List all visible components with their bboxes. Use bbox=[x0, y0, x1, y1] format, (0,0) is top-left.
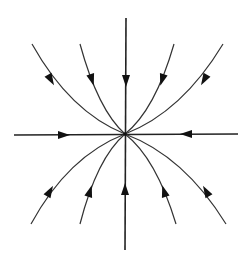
arrow-right-icon bbox=[58, 131, 70, 139]
arrow-left-icon bbox=[180, 130, 192, 138]
arrow-bottom-4-icon bbox=[200, 184, 213, 198]
arrow-bottom-1-icon bbox=[44, 184, 57, 198]
trajectory-bottom-4 bbox=[125, 134, 226, 224]
origin-node bbox=[123, 132, 127, 136]
trajectory-top-2 bbox=[80, 44, 125, 134]
arrow-top-2-icon bbox=[86, 73, 97, 87]
phase-portrait-diagram bbox=[0, 0, 251, 264]
arrow-up-icon bbox=[121, 183, 129, 195]
trajectory-bottom-2 bbox=[80, 134, 125, 224]
arrow-down-icon bbox=[122, 75, 130, 87]
arrow-bottom-3-icon bbox=[158, 184, 169, 198]
trajectory-top-4 bbox=[125, 44, 223, 134]
trajectory-top-1 bbox=[32, 44, 125, 134]
trajectory-bottom-3 bbox=[125, 134, 176, 224]
arrow-bottom-2-icon bbox=[84, 184, 95, 198]
arrow-top-4-icon bbox=[198, 73, 211, 87]
trajectory-bottom-1 bbox=[31, 134, 125, 224]
trajectory-top-3 bbox=[125, 44, 174, 134]
arrow-top-3-icon bbox=[156, 73, 167, 87]
